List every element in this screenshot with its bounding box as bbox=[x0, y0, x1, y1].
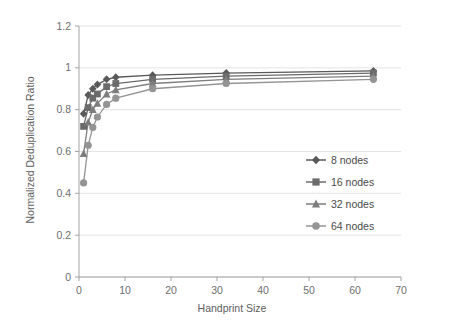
y-axis-tick-label: 0.6 bbox=[56, 145, 71, 157]
data-point-marker-circle bbox=[112, 95, 119, 102]
data-point-marker-triangle bbox=[80, 149, 88, 157]
data-point-marker-circle bbox=[103, 101, 110, 108]
data-point-marker-diamond bbox=[112, 73, 120, 81]
data-point-marker-circle bbox=[370, 76, 377, 83]
y-axis-tick-label: 1.2 bbox=[56, 20, 71, 32]
deduplication-ratio-line-chart: 00.20.40.60.811.2 010203040506070 8 node… bbox=[0, 0, 460, 328]
legend-label: 16 nodes bbox=[331, 176, 374, 188]
data-point-marker-square bbox=[103, 83, 110, 90]
gridlines-group bbox=[79, 26, 401, 277]
series-line-64-nodes bbox=[84, 79, 374, 183]
x-axis-tick-label: 10 bbox=[119, 284, 131, 296]
x-axis-tick-label: 20 bbox=[165, 284, 177, 296]
x-axis-title: Handprint Size bbox=[198, 302, 267, 314]
data-point-marker-circle bbox=[85, 142, 92, 149]
data-point-marker-circle bbox=[223, 80, 230, 87]
data-point-marker-diamond bbox=[312, 156, 320, 164]
y-axis-title: Normalized Deduplication Ratio bbox=[24, 76, 36, 223]
x-axis-tick-label: 30 bbox=[211, 284, 223, 296]
data-point-marker-circle bbox=[80, 179, 87, 186]
y-axis-tick-label: 0 bbox=[65, 271, 71, 283]
ytick-labels-group: 00.20.40.60.811.2 bbox=[56, 20, 71, 283]
data-point-marker-circle bbox=[94, 113, 101, 120]
data-point-marker-square bbox=[94, 91, 101, 98]
y-axis-tick-label: 0.8 bbox=[56, 103, 71, 115]
data-point-marker-square bbox=[312, 178, 319, 185]
data-point-marker-triangle bbox=[103, 90, 111, 98]
legend-label: 8 nodes bbox=[331, 154, 368, 166]
x-axis-tick-label: 0 bbox=[76, 284, 82, 296]
x-axis-tick-label: 60 bbox=[349, 284, 361, 296]
x-axis-tick-label: 40 bbox=[257, 284, 269, 296]
chart-container: 00.20.40.60.811.2 010203040506070 8 node… bbox=[0, 0, 460, 328]
data-point-marker-circle bbox=[312, 222, 320, 230]
series-line-32-nodes bbox=[84, 76, 374, 153]
data-point-marker-circle bbox=[89, 124, 96, 131]
legend-label: 32 nodes bbox=[331, 198, 374, 210]
y-axis-tick-label: 0.4 bbox=[56, 187, 71, 199]
y-axis-tick-label: 0.2 bbox=[56, 229, 71, 241]
y-axis-tick-label: 1 bbox=[65, 61, 71, 73]
data-point-marker-circle bbox=[149, 85, 156, 92]
legend-label: 64 nodes bbox=[331, 220, 374, 232]
series-group bbox=[80, 67, 378, 187]
x-axis-tick-label: 70 bbox=[395, 284, 407, 296]
x-axis-tick-label: 50 bbox=[303, 284, 315, 296]
legend: 8 nodes16 nodes32 nodes64 nodes bbox=[306, 154, 374, 232]
data-point-marker-diamond bbox=[103, 75, 111, 83]
xtick-labels-group: 010203040506070 bbox=[76, 284, 407, 296]
